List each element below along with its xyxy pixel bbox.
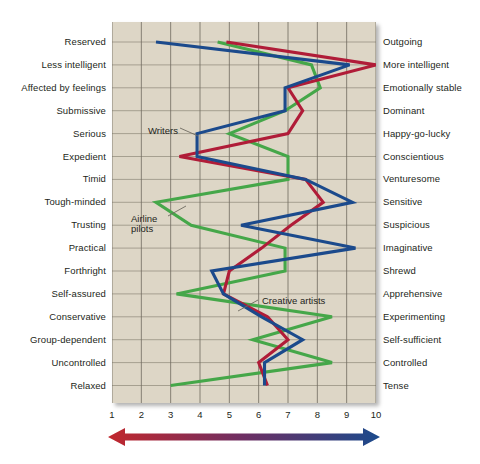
annotation-leader-line: [180, 128, 198, 136]
bipolar-gradient-arrow: [108, 424, 380, 450]
annotation-leader-line: [168, 206, 186, 216]
personality-profile-chart: ReservedLess intelligentAffected by feel…: [0, 0, 480, 464]
annotation-leader-lines: [0, 0, 480, 464]
series-annotation-label: Creative artists: [262, 296, 325, 306]
annotation-leader-line: [238, 300, 258, 311]
series-annotation-label: Airline pilots: [131, 214, 157, 235]
series-annotation-label: Writers: [148, 126, 178, 136]
